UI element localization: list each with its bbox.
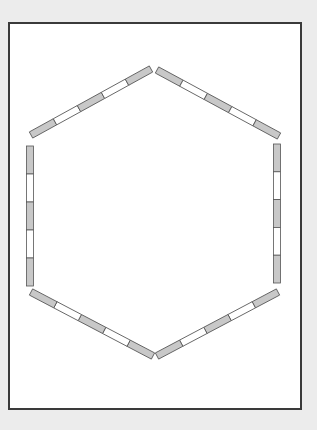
filled-segment [29,289,57,308]
filled-segment [78,315,106,334]
upper-left-edge [29,66,152,138]
filled-segment [27,146,34,174]
filled-segment [274,144,281,172]
empty-segment [274,172,281,200]
empty-segment [274,227,281,255]
empty-segment [53,106,80,125]
empty-segment [228,302,255,321]
upper-right-edge [155,67,280,139]
filled-segment [155,67,183,86]
empty-segment [229,107,257,126]
right-edge [274,144,281,283]
filled-segment [274,255,281,283]
filled-segment [29,119,56,138]
filled-segment [77,92,104,111]
filled-segment [27,258,34,286]
filled-segment [252,289,279,308]
empty-segment [103,327,131,346]
filled-segment [204,315,231,334]
empty-segment [101,79,128,98]
hexagon-diagram [0,0,317,430]
filled-segment [253,120,281,139]
empty-segment [27,174,34,202]
filled-segment [27,202,34,230]
empty-segment [180,327,207,346]
filled-segment [274,200,281,228]
filled-segment [125,66,152,85]
empty-segment [27,230,34,258]
filled-segment [204,93,232,112]
empty-segment [54,302,82,321]
left-edge [27,146,34,286]
empty-segment [180,80,208,99]
lower-left-edge [29,289,154,359]
filled-segment [155,340,182,359]
filled-segment [127,340,155,359]
lower-right-edge [155,289,279,359]
